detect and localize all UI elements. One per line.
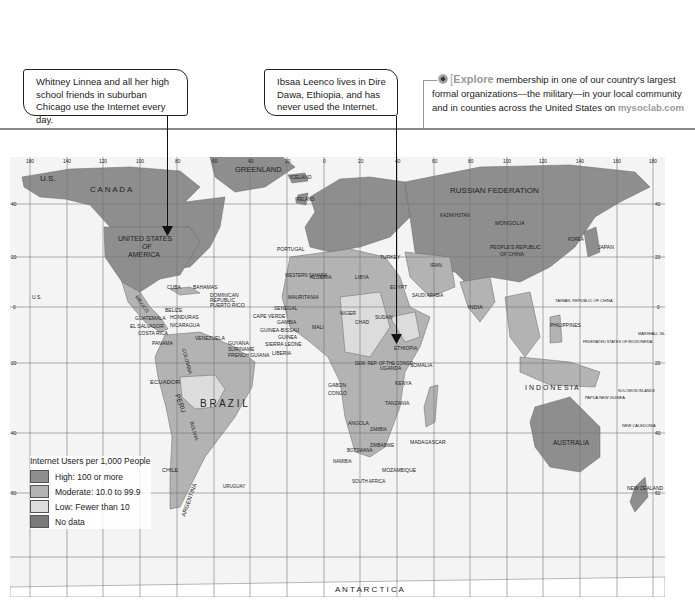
svg-text:0: 0 bbox=[657, 305, 660, 310]
svg-text:U.S.: U.S. bbox=[32, 294, 42, 300]
svg-text:PEOPLE'S REPUBLIC: PEOPLE'S REPUBLIC bbox=[490, 244, 541, 250]
svg-text:OF CHINA: OF CHINA bbox=[500, 251, 525, 257]
legend-title: Internet Users per 1,000 People bbox=[30, 456, 151, 466]
svg-text:IRAN: IRAN bbox=[430, 262, 442, 268]
svg-text:KENYA: KENYA bbox=[395, 380, 412, 386]
svg-text:I N D O N E S I A: I N D O N E S I A bbox=[525, 384, 579, 391]
svg-text:SOLOMON ISLANDS: SOLOMON ISLANDS bbox=[618, 389, 655, 393]
svg-text:SOUTH AFRICA: SOUTH AFRICA bbox=[352, 479, 385, 484]
svg-text:ANGOLA: ANGOLA bbox=[348, 420, 370, 426]
svg-text:DEM. REP. OF THE CONGO: DEM. REP. OF THE CONGO bbox=[355, 361, 414, 366]
svg-text:TAIWAN, REPUBLIC OF CHINA: TAIWAN, REPUBLIC OF CHINA bbox=[555, 298, 613, 303]
legend-swatch-low bbox=[30, 500, 49, 513]
svg-text:40: 40 bbox=[655, 431, 661, 436]
svg-text:PORTUGAL: PORTUGAL bbox=[277, 246, 305, 252]
svg-text:40: 40 bbox=[655, 202, 661, 207]
svg-text:INDIA: INDIA bbox=[468, 304, 483, 310]
svg-text:20: 20 bbox=[358, 159, 364, 164]
svg-text:BOTSWANA: BOTSWANA bbox=[347, 448, 373, 453]
svg-text:100: 100 bbox=[503, 159, 511, 164]
svg-text:PHILIPPINES: PHILIPPINES bbox=[550, 322, 582, 328]
svg-text:140: 140 bbox=[576, 159, 584, 164]
svg-text:20: 20 bbox=[655, 361, 661, 366]
explore-rule bbox=[423, 80, 424, 130]
svg-text:URUGUAY: URUGUAY bbox=[223, 484, 245, 489]
svg-text:NAMIBIA: NAMIBIA bbox=[333, 459, 352, 464]
callout-chicago: Whitney Linnea and all her high school f… bbox=[23, 69, 188, 116]
svg-text:MOZAMBIQUE: MOZAMBIQUE bbox=[382, 467, 417, 473]
svg-text:40: 40 bbox=[11, 431, 17, 436]
svg-text:PAPUA NEW GUINEA: PAPUA NEW GUINEA bbox=[585, 395, 625, 400]
svg-text:BELIZE: BELIZE bbox=[165, 307, 183, 313]
callout-ethiopia: Ibsaa Leenco lives in Dire Dawa, Ethiopi… bbox=[264, 69, 398, 116]
legend-label-moderate: Moderate: 10.0 to 99.9 bbox=[55, 487, 141, 497]
svg-text:ECUADOR: ECUADOR bbox=[150, 379, 181, 385]
svg-text:RUSSIAN FEDERATION: RUSSIAN FEDERATION bbox=[450, 186, 539, 195]
explore-target-icon bbox=[438, 74, 448, 84]
svg-text:EGYPT: EGYPT bbox=[390, 284, 407, 290]
svg-text:100: 100 bbox=[136, 159, 144, 164]
svg-text:0: 0 bbox=[323, 159, 326, 164]
svg-text:MONGOLIA: MONGOLIA bbox=[495, 220, 525, 226]
svg-text:LIBYA: LIBYA bbox=[355, 274, 369, 280]
explore-rule-h bbox=[423, 80, 437, 81]
svg-text:KAZAKHSTAN: KAZAKHSTAN bbox=[440, 213, 470, 218]
svg-text:OF: OF bbox=[142, 243, 152, 250]
legend-item-no-data: No data bbox=[30, 514, 151, 529]
svg-text:HONDURAS: HONDURAS bbox=[170, 314, 199, 320]
svg-text:CHAD: CHAD bbox=[355, 319, 370, 325]
svg-text:60: 60 bbox=[655, 491, 661, 496]
svg-text:CHILE: CHILE bbox=[162, 467, 179, 473]
svg-text:PANAMA: PANAMA bbox=[152, 340, 173, 346]
svg-text:COSTA RICA: COSTA RICA bbox=[138, 330, 169, 336]
svg-text:GAMBIA: GAMBIA bbox=[277, 319, 297, 325]
svg-text:80: 80 bbox=[468, 159, 474, 164]
arrow-ethiopia-line bbox=[396, 116, 397, 336]
svg-text:20: 20 bbox=[11, 255, 17, 260]
svg-text:BAHAMAS: BAHAMAS bbox=[193, 284, 218, 290]
svg-text:AMERICA: AMERICA bbox=[128, 251, 160, 258]
world-map: U.S. C A N A D A GREENLAND ICELAND UNITE… bbox=[10, 157, 665, 597]
svg-text:SUDAN: SUDAN bbox=[375, 314, 393, 320]
svg-text:ZAMBIA: ZAMBIA bbox=[370, 427, 387, 432]
svg-text:AUSTRALIA: AUSTRALIA bbox=[553, 439, 590, 446]
svg-text:GREENLAND: GREENLAND bbox=[235, 165, 282, 174]
arrow-chicago-head-icon bbox=[162, 226, 173, 236]
svg-text:40: 40 bbox=[11, 202, 17, 207]
svg-text:TANZANIA: TANZANIA bbox=[385, 400, 410, 406]
mysoclab-link[interactable]: mysoclab.com bbox=[618, 102, 684, 113]
svg-text:KOREA: KOREA bbox=[568, 237, 584, 242]
legend-item-moderate: Moderate: 10.0 to 99.9 bbox=[30, 484, 151, 499]
svg-text:UNITED STATES: UNITED STATES bbox=[118, 235, 173, 242]
svg-text:ETHIOPIA: ETHIOPIA bbox=[394, 345, 418, 351]
arrow-ethiopia-head-icon bbox=[391, 334, 402, 344]
header-divider bbox=[0, 128, 695, 130]
svg-text:LIBERIA: LIBERIA bbox=[272, 350, 292, 356]
svg-text:NICARAGUA: NICARAGUA bbox=[170, 322, 200, 328]
svg-text:GABON: GABON bbox=[328, 382, 346, 388]
svg-text:NIGER: NIGER bbox=[340, 310, 356, 316]
svg-text:MADAGASCAR: MADAGASCAR bbox=[410, 439, 446, 445]
svg-text:PUERTO RICO: PUERTO RICO bbox=[210, 302, 245, 308]
legend-swatch-moderate bbox=[30, 485, 49, 498]
svg-text:CUBA: CUBA bbox=[167, 284, 182, 290]
svg-text:CONGO: CONGO bbox=[328, 390, 347, 396]
svg-text:20: 20 bbox=[11, 361, 17, 366]
svg-text:ZIMBABWE: ZIMBABWE bbox=[370, 443, 394, 448]
svg-text:SIERRA LEONE: SIERRA LEONE bbox=[265, 341, 302, 347]
svg-text:GUATEMALA: GUATEMALA bbox=[135, 315, 166, 321]
svg-text:A N T A R C T I C A: A N T A R C T I C A bbox=[335, 585, 404, 594]
svg-text:60: 60 bbox=[11, 491, 17, 496]
explore-box: [Explore membership in one of our countr… bbox=[432, 72, 694, 116]
svg-text:SOMALIA: SOMALIA bbox=[410, 362, 433, 368]
legend-swatch-high bbox=[30, 470, 49, 483]
map-legend: Internet Users per 1,000 People High: 10… bbox=[30, 456, 151, 529]
svg-text:IRELAND: IRELAND bbox=[295, 197, 315, 202]
svg-text:180: 180 bbox=[26, 159, 34, 164]
svg-text:VENEZUELA: VENEZUELA bbox=[195, 335, 225, 341]
legend-label-high: High: 100 or more bbox=[55, 472, 123, 482]
svg-text:60: 60 bbox=[212, 159, 218, 164]
svg-text:EL SALVADOR: EL SALVADOR bbox=[130, 323, 164, 329]
legend-swatch-no-data bbox=[30, 515, 49, 528]
svg-text:20: 20 bbox=[655, 255, 661, 260]
